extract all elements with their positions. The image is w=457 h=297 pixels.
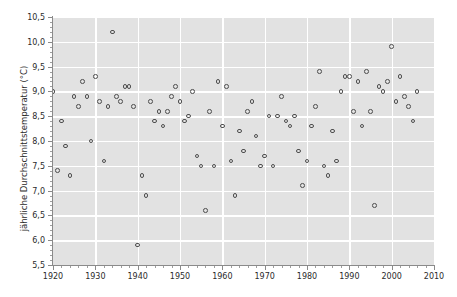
data-point [233,193,238,198]
x-tick-minor [358,266,359,268]
y-tick-minor [50,201,52,202]
data-point [313,104,318,109]
x-tick-major [222,266,223,270]
y-tick-minor [50,235,52,236]
x-tick-minor [383,266,384,268]
x-tick-minor [409,266,410,268]
data-point [216,79,221,84]
data-point [258,164,263,169]
y-tick-label: 5,5 [5,261,45,270]
data-point [237,129,242,134]
x-tick-minor [129,266,130,268]
gridline-vertical [307,17,308,265]
y-tick-major [48,91,52,92]
x-tick-minor [172,266,173,268]
data-point [106,104,111,109]
x-tick-minor [146,266,147,268]
y-tick-major [48,166,52,167]
x-tick-minor [341,266,342,268]
data-point [372,203,377,208]
x-tick-major [53,266,54,270]
data-point [288,124,293,129]
y-tick-minor [50,171,52,172]
data-point [406,104,411,109]
data-point [169,94,174,99]
y-tick-minor [50,176,52,177]
x-tick-minor [299,266,300,268]
gridline-horizontal [53,67,434,68]
x-tick-minor [375,266,376,268]
y-tick-minor [50,52,52,53]
x-tick-label: 1990 [329,272,369,281]
y-tick-major [48,141,52,142]
x-tick-label: 1980 [287,272,327,281]
y-tick-label: 10,5 [5,13,45,22]
data-point [245,109,250,114]
x-tick-minor [282,266,283,268]
gridline-vertical [265,17,266,265]
y-tick-major [48,116,52,117]
y-tick-minor [50,81,52,82]
y-tick-label: 10,0 [5,37,45,46]
y-tick-label: 7,5 [5,161,45,170]
x-tick-minor [155,266,156,268]
x-tick-label: 1960 [202,272,242,281]
data-point [59,119,64,124]
gridline-horizontal [53,17,434,18]
data-point [97,99,102,104]
data-point [220,124,225,129]
x-tick-label: 1970 [245,272,285,281]
x-tick-major [138,266,139,270]
data-point [203,208,208,213]
x-tick-label: 1920 [33,272,73,281]
x-tick-minor [400,266,401,268]
y-tick-minor [50,136,52,137]
x-tick-minor [214,266,215,268]
y-tick-minor [50,146,52,147]
data-point [279,94,284,99]
y-tick-minor [50,27,52,28]
data-point [275,114,280,119]
data-point [411,119,416,124]
gridline-horizontal [53,116,434,117]
data-point [165,109,170,114]
x-tick-minor [426,266,427,268]
y-tick-label: 8,0 [5,137,45,146]
x-tick-minor [315,266,316,268]
gridline-vertical [180,17,181,265]
data-point [364,69,369,74]
gridline-horizontal [53,191,434,192]
x-tick-minor [290,266,291,268]
y-tick-minor [50,255,52,256]
x-tick-major [434,266,435,270]
x-tick-minor [163,266,164,268]
data-point [53,89,55,94]
data-point [114,94,119,99]
x-tick-label: 1940 [118,272,158,281]
data-point [389,44,394,49]
y-tick-minor [50,151,52,152]
y-tick-major [48,191,52,192]
data-point [356,79,361,84]
data-point [140,173,145,178]
data-point [398,74,403,79]
y-tick-minor [50,121,52,122]
data-point [72,94,77,99]
data-point [300,183,305,188]
x-tick-minor [104,266,105,268]
gridline-vertical [138,17,139,265]
x-axis-spine [52,265,435,266]
x-tick-minor [417,266,418,268]
data-point [190,89,195,94]
data-point [334,159,339,164]
gridline-vertical [222,17,223,265]
gridline-horizontal [53,240,434,241]
y-tick-major [48,67,52,68]
y-tick-minor [50,225,52,226]
data-point [368,109,373,114]
data-point [305,159,310,164]
gridline-vertical [392,17,393,265]
y-tick-label: 8,5 [5,112,45,121]
y-tick-minor [50,161,52,162]
data-point [330,129,335,134]
